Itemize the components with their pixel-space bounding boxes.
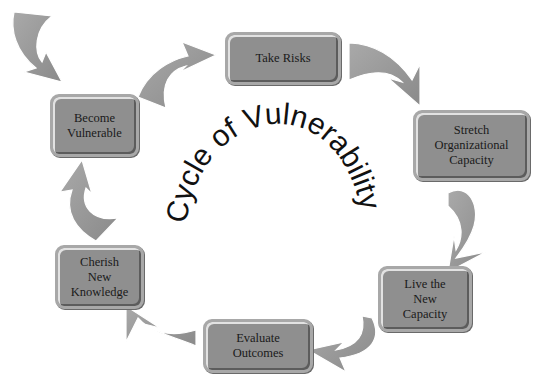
node-evaluate-outcomes: Evaluate Outcomes — [203, 319, 313, 373]
svg-text:Cycle of Vulnerability: Cycle of Vulnerability — [159, 97, 387, 225]
node-take-risks: Take Risks — [225, 32, 341, 85]
node-become-vulnerable: Become Vulnerable — [50, 94, 139, 157]
node-cherish-new-knowledge: Cherish New Knowledge — [55, 245, 144, 309]
node-live-the-new-capacity: Live the New Capacity — [378, 266, 472, 332]
node-stretch-organizational-capacity: Stretch Organizational Capacity — [413, 110, 530, 181]
diagram-canvas: Cycle of Vulnerability Take Risks Stretc… — [0, 0, 538, 388]
